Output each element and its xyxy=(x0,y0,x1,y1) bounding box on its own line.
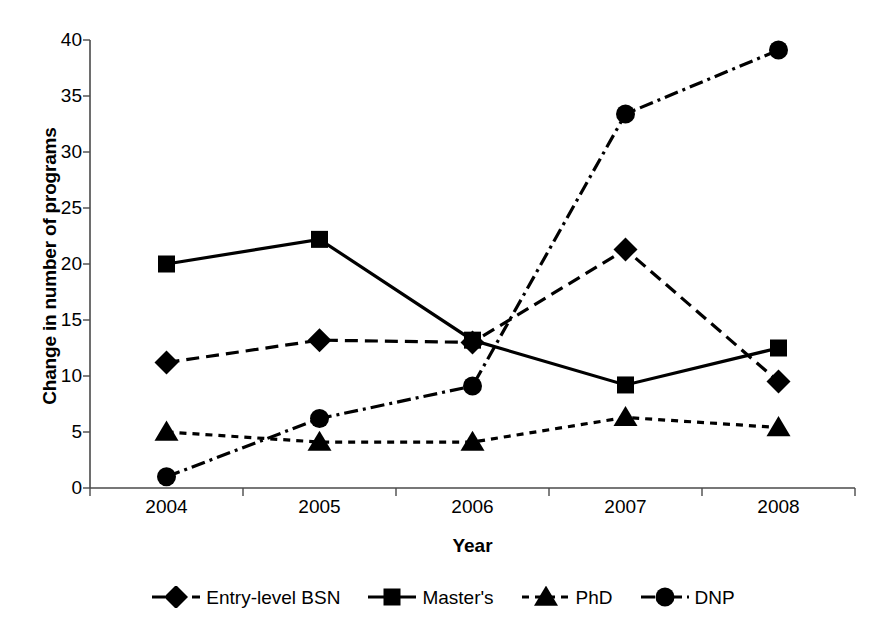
series-entry-level-bsn xyxy=(155,237,791,393)
y-tick-label: 40 xyxy=(42,30,82,49)
axis-lines xyxy=(83,40,855,496)
x-tick-label: 2007 xyxy=(571,496,681,518)
triangle-marker xyxy=(614,406,638,426)
y-tick-label: 10 xyxy=(42,366,82,385)
series-master-s xyxy=(158,231,787,394)
y-tick-label: 15 xyxy=(42,310,82,329)
diamond-marker xyxy=(614,237,638,261)
square-marker xyxy=(617,376,634,393)
chart-figure: Change in number of programs 05101520253… xyxy=(0,0,885,631)
series-line xyxy=(167,50,779,477)
y-tick-label: 25 xyxy=(42,198,82,217)
y-tick-label: 35 xyxy=(42,86,82,105)
square-marker xyxy=(770,340,787,357)
data-series-layer xyxy=(155,41,791,487)
y-tick-label: 0 xyxy=(42,478,82,497)
series-line xyxy=(167,239,779,385)
circle-marker xyxy=(157,467,176,486)
circle-marker xyxy=(463,377,482,396)
y-axis-tick-labels: 0510152025303540 xyxy=(30,0,82,631)
square-marker xyxy=(384,589,401,606)
x-tick-label: 2006 xyxy=(418,496,528,518)
diamond-marker xyxy=(308,328,332,352)
legend-swatch-triangle-icon xyxy=(520,586,572,608)
circle-marker xyxy=(655,588,674,607)
diamond-marker xyxy=(767,370,791,394)
legend-swatch-square-icon xyxy=(366,586,418,608)
x-axis-tick-labels: 20042005200620072008 xyxy=(90,496,855,526)
square-marker xyxy=(464,332,481,349)
chart-legend: Entry-level BSNMaster'sPhDDNP xyxy=(0,586,885,608)
series-dnp xyxy=(157,41,788,487)
triangle-marker xyxy=(155,421,179,441)
legend-swatch-circle-icon xyxy=(639,586,691,608)
legend-entry[interactable]: DNP xyxy=(639,586,735,608)
legend-label: Master's xyxy=(422,588,493,607)
y-tick-label: 20 xyxy=(42,254,82,273)
series-line xyxy=(167,249,779,381)
x-tick-label: 2008 xyxy=(724,496,834,518)
legend-entry[interactable]: PhD xyxy=(520,586,613,608)
y-tick-label: 5 xyxy=(42,422,82,441)
legend-entry[interactable]: Entry-level BSN xyxy=(150,586,340,608)
legend-entry[interactable]: Master's xyxy=(366,586,493,608)
x-tick-label: 2005 xyxy=(265,496,375,518)
circle-marker xyxy=(310,409,329,428)
legend-label: PhD xyxy=(576,588,613,607)
circle-marker xyxy=(616,104,635,123)
legend-label: Entry-level BSN xyxy=(206,588,340,607)
x-tick-label: 2004 xyxy=(112,496,222,518)
square-marker xyxy=(158,256,175,273)
square-marker xyxy=(311,231,328,248)
diamond-marker xyxy=(164,586,188,608)
circle-marker xyxy=(769,41,788,60)
diamond-marker xyxy=(155,351,179,375)
y-tick-label: 30 xyxy=(42,142,82,161)
legend-swatch-diamond-icon xyxy=(150,586,202,608)
legend-label: DNP xyxy=(695,588,735,607)
x-axis-title: Year xyxy=(90,535,855,557)
triangle-marker xyxy=(767,416,791,436)
